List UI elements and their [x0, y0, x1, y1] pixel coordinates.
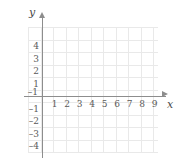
- x-axis-label: x: [167, 98, 173, 111]
- y-axis-arrow-icon: [39, 12, 45, 18]
- y-tick-label: 1: [24, 79, 39, 89]
- y-tick-label: –4: [24, 141, 39, 151]
- gridline-horizontal: [28, 40, 158, 41]
- gridline-horizontal: [28, 90, 158, 91]
- gridline-horizontal: [28, 65, 158, 66]
- x-tick-label: 9: [148, 99, 162, 109]
- grid: [28, 27, 158, 152]
- y-axis-label: y: [29, 6, 35, 19]
- y-tick-label: 3: [24, 54, 39, 64]
- x-axis-line: [24, 96, 166, 97]
- y-tick-label: 2: [24, 66, 39, 76]
- coordinate-plane: y x –1 123456789 4321–1–2–3–4: [0, 0, 186, 168]
- gridline-horizontal: [28, 52, 158, 53]
- x-tick-label-negative-one: –1: [23, 87, 38, 97]
- y-tick-label: 4: [24, 41, 39, 51]
- gridline-horizontal: [28, 27, 158, 28]
- gridline-horizontal: [28, 77, 158, 78]
- gridline-horizontal: [28, 152, 158, 153]
- y-tick-label: –2: [24, 116, 39, 126]
- y-tick-label: –3: [24, 129, 39, 139]
- gridline-horizontal: [28, 115, 158, 116]
- gridline-horizontal: [28, 127, 158, 128]
- y-axis-line: [42, 16, 43, 158]
- gridline-horizontal: [28, 140, 158, 141]
- y-tick-label: –1: [24, 104, 39, 114]
- x-axis-arrow-icon: [162, 91, 168, 97]
